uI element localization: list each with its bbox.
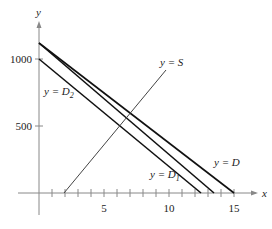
x-axis-label: x	[261, 187, 267, 199]
label-D2: y = D2	[43, 85, 74, 100]
label-D: y = D	[213, 156, 240, 168]
axes	[18, 24, 256, 215]
y-axis-arrow-icon	[37, 21, 42, 28]
x-tick-label-5: 5	[101, 202, 107, 214]
label-S: y = S	[159, 56, 184, 68]
x-axis-arrow-icon	[251, 191, 258, 196]
y-axis-label: y	[35, 6, 41, 18]
label-D1: y = D1	[149, 168, 180, 183]
y-tick-label-1000: 1000	[10, 53, 33, 65]
demand-line-D	[39, 43, 234, 193]
x-tick-label-10: 10	[164, 202, 176, 214]
supply-demand-chart: 5 10 15 500 1000 x y y = D y = D1 y = D2…	[0, 0, 272, 229]
y-tick-label-500: 500	[16, 120, 33, 132]
x-tick-label-15: 15	[229, 202, 241, 214]
